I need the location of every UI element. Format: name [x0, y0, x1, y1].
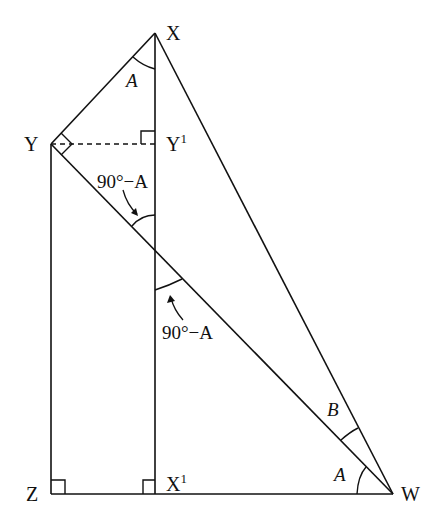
angle-label-x: A	[124, 70, 138, 91]
angle-arc-w-upper	[341, 428, 358, 440]
angle-arc-w-lower	[357, 467, 366, 494]
segment-yw	[51, 144, 393, 494]
right-angle-marker-y1	[141, 131, 155, 144]
label-x1: X1	[166, 471, 187, 495]
label-w: W	[401, 483, 420, 505]
label-z: Z	[26, 483, 38, 505]
segment-xw	[155, 33, 393, 494]
geometry-diagram: X Y Y1 Z X1 W A 90°−A 90°−A B A	[0, 0, 427, 530]
angle-label-lower: 90°−A	[162, 322, 213, 343]
angle-arc-x	[133, 57, 155, 69]
arrowhead-lower	[167, 295, 175, 303]
angle-label-upper: 90°−A	[97, 171, 148, 192]
label-y1: Y1	[166, 131, 187, 155]
angle-label-w-upper: B	[327, 399, 339, 420]
right-angle-marker-z	[51, 480, 65, 494]
segment-xy	[51, 33, 155, 144]
angle-label-w-lower: A	[332, 464, 346, 485]
label-y: Y	[24, 133, 38, 155]
angle-arc-lower	[155, 279, 182, 290]
label-x: X	[166, 22, 181, 44]
right-angle-marker-x1	[143, 480, 155, 494]
angle-arc-upper	[132, 215, 155, 226]
